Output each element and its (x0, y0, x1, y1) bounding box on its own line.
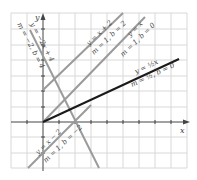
line-graph-figure: x y y = x + 2 m = 1, b = 2 y = x m = 1, … (0, 0, 197, 180)
x-axis-label: x (180, 126, 185, 135)
y-axis-arrow-icon (41, 13, 46, 20)
